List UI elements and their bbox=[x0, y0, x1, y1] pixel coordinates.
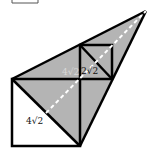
label-big-diagonal: 4√2 bbox=[26, 116, 43, 126]
label-faint: 4√2 bbox=[62, 67, 79, 77]
geometry-diagram: 4√2 2√2 4√2 bbox=[0, 0, 153, 156]
label-small-diagonal: 2√2 bbox=[81, 66, 98, 76]
cropped-box bbox=[12, 0, 38, 3]
